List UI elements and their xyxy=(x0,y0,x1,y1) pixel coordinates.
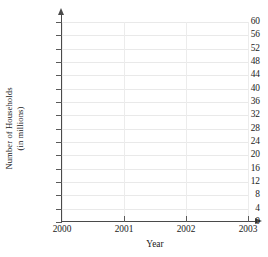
y-axis-tick xyxy=(56,155,62,156)
y-axis-tick-label: 20 xyxy=(216,150,268,159)
y-axis-tick-label: 12 xyxy=(216,177,268,186)
y-axis-arrow-icon xyxy=(58,8,64,15)
y-axis-line xyxy=(61,14,62,223)
y-axis-tick-label: 44 xyxy=(216,70,268,79)
gridline-vertical xyxy=(186,22,187,222)
y-axis-tick xyxy=(56,62,62,63)
y-axis-tick-label: 52 xyxy=(216,44,268,53)
x-axis-title: Year xyxy=(62,239,248,250)
y-axis-tick-label: 24 xyxy=(216,137,268,146)
y-axis-tick-label: 36 xyxy=(216,97,268,106)
y-axis-tick xyxy=(56,129,62,130)
x-axis-tick xyxy=(186,216,187,222)
y-axis-title: Number of Households (in millions) xyxy=(0,0,30,257)
y-axis-tick xyxy=(56,222,62,223)
y-axis-tick-label: 4 xyxy=(216,204,268,213)
y-axis-tick xyxy=(56,102,62,103)
y-axis-tick xyxy=(56,142,62,143)
y-axis-tick-label: 8 xyxy=(216,190,268,199)
y-axis-title-line1: Number of Households xyxy=(4,87,15,169)
y-axis-tick xyxy=(56,182,62,183)
x-axis-tick-label: 2001 xyxy=(100,224,148,234)
x-axis-tick xyxy=(248,216,249,222)
y-axis-tick-label: 48 xyxy=(216,57,268,66)
y-axis-tick xyxy=(56,75,62,76)
y-axis-tick-label: 16 xyxy=(216,164,268,173)
y-axis-tick xyxy=(56,195,62,196)
y-axis-title-line2: (in millions) xyxy=(15,87,26,169)
x-axis-tick xyxy=(124,216,125,222)
y-axis-tick-label: 28 xyxy=(216,124,268,133)
gridline-vertical xyxy=(124,22,125,222)
y-axis-tick-label: 56 xyxy=(216,30,268,39)
x-axis-tick-label: 2002 xyxy=(162,224,210,234)
y-axis-tick xyxy=(56,115,62,116)
y-axis-tick xyxy=(56,169,62,170)
gridline-vertical xyxy=(62,22,63,222)
x-axis-tick-label: 2003 xyxy=(224,224,268,234)
y-axis-tick-label: 32 xyxy=(216,110,268,119)
chart-container: Number of Households (in millions) 04812… xyxy=(0,0,268,257)
y-axis-tick xyxy=(56,49,62,50)
y-axis-tick-label: 40 xyxy=(216,84,268,93)
y-axis-tick xyxy=(56,22,62,23)
y-axis-tick-label: 60 xyxy=(216,17,268,26)
y-axis-tick xyxy=(56,89,62,90)
y-axis-tick xyxy=(56,35,62,36)
x-axis-tick-label: 2000 xyxy=(38,224,86,234)
y-axis-tick xyxy=(56,209,62,210)
